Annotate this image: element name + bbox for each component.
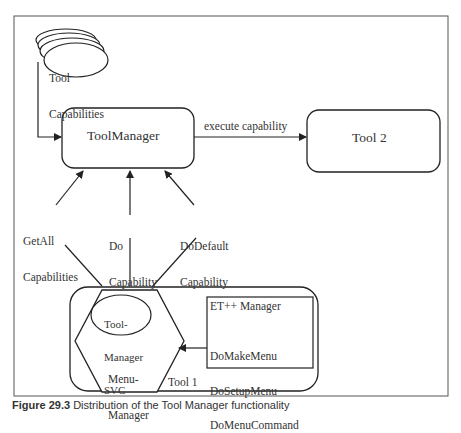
do-default-line2: Capability bbox=[180, 276, 229, 288]
method-do-setup-menu: DoSetupMenu bbox=[210, 386, 299, 398]
get-all-capabilities-label: GetAll Capabilities bbox=[23, 211, 78, 295]
etpp-methods-list: DoMakeMenu DoSetupMenu DoMenuCommand bbox=[210, 328, 299, 433]
tool-capabilities-label: Tool Capabilities bbox=[49, 48, 104, 132]
svc-line1: Tool- bbox=[104, 319, 143, 330]
get-all-line2: Capabilities bbox=[23, 271, 78, 283]
method-do-make-menu: DoMakeMenu bbox=[210, 351, 299, 363]
tool1-label: Tool 1 bbox=[168, 376, 198, 388]
do-default-capability-label: DoDefault Capability bbox=[180, 216, 229, 300]
menu-manager-label: Menu- Manager bbox=[108, 349, 149, 433]
execute-capability-label: execute capability bbox=[204, 120, 287, 132]
method-do-menu-command: DoMenuCommand bbox=[210, 420, 299, 432]
tool-manager-label: ToolManager bbox=[87, 129, 160, 143]
figure-caption: Figure 29.3 Distribution of the Tool Man… bbox=[12, 399, 289, 411]
figure-caption-text: Distribution of the Tool Manager functio… bbox=[73, 399, 289, 411]
tool-capabilities-line1: Tool bbox=[49, 72, 104, 84]
tool-capabilities-line2: Capabilities bbox=[49, 108, 104, 120]
menu-manager-line1: Menu- bbox=[108, 373, 149, 385]
etpp-manager-title: ET++ Manager bbox=[210, 300, 281, 312]
tool2-label: Tool 2 bbox=[352, 131, 387, 145]
do-default-line1: DoDefault bbox=[180, 240, 229, 252]
do-capability-line2: Capability bbox=[109, 276, 157, 288]
do-capability-label: Do Capability bbox=[109, 216, 157, 300]
get-all-line1: GetAll bbox=[23, 235, 78, 247]
do-capability-line1: Do bbox=[109, 240, 157, 252]
figure-number: Figure 29.3 bbox=[12, 399, 70, 411]
